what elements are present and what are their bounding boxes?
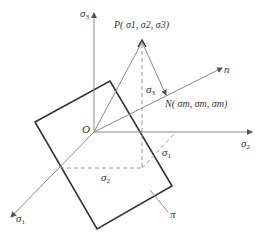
stress-space-diagram: σ3 σ2 σ1 n O P( σ1, σ2, σ3) N( σm, σm, σ… — [0, 0, 260, 237]
op-line — [94, 42, 142, 132]
proj-sigma2-label: σ2 — [101, 172, 110, 185]
sigma1-axis-label: σ1 — [16, 213, 25, 226]
pi-plane-label: π — [170, 209, 176, 220]
sigma3-axis-label: σ3 — [80, 8, 89, 21]
point-p-label: P( σ1, σ2, σ3) — [114, 20, 169, 30]
sigma2-axis-label: σ2 — [241, 138, 250, 151]
point-n-label: N( σm, σm, σm) — [165, 99, 227, 109]
n-axis-label: n — [224, 64, 230, 75]
diagram-graphics — [0, 0, 260, 237]
origin-label: O — [82, 124, 90, 135]
proj-sigma1-label: σ1 — [162, 147, 171, 160]
proj-sigma3-label: σ3 — [146, 84, 155, 97]
sigma1-axis — [11, 132, 94, 217]
